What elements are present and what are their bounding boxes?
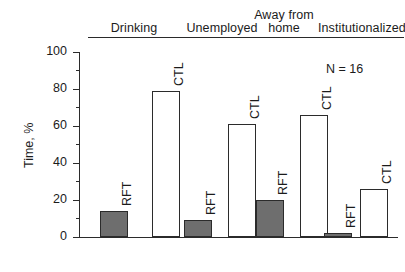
bar-rft <box>100 211 128 237</box>
y-tick-label: 80 <box>35 81 67 95</box>
bar-ctl <box>152 91 180 237</box>
sample-size-annotation: N = 16 <box>326 62 363 76</box>
bar-label-rft: RFT <box>344 204 358 228</box>
bar-rft <box>256 200 284 237</box>
y-tick-minor <box>76 181 81 182</box>
y-tick-label: 60 <box>35 118 67 132</box>
group-header-underline <box>246 37 322 38</box>
y-tick-minor <box>76 218 81 219</box>
y-tick-label: 20 <box>35 192 67 206</box>
group-header-drinking: Drinking <box>88 22 180 38</box>
y-axis-title: Time, % <box>22 123 36 168</box>
group-header-line: home <box>246 22 322 35</box>
group-header-away-from-home: Away from home <box>246 9 322 38</box>
bar-ctl <box>228 124 256 237</box>
group-header-underline <box>88 37 180 38</box>
x-axis-line <box>79 237 398 238</box>
bar-label-ctl: CTL <box>320 86 334 110</box>
y-tick-major <box>73 126 80 127</box>
group-header-institutionalized: Institutionalized <box>318 22 404 38</box>
group-header-line: Drinking <box>88 22 180 35</box>
bar-chart-figure: Drinking Unemployed Away from home Insti… <box>0 0 405 272</box>
bar-label-rft: RFT <box>120 182 134 206</box>
bar-label-ctl: CTL <box>172 62 186 86</box>
y-tick-label: 100 <box>35 44 67 58</box>
bar-ctl <box>300 115 328 237</box>
y-tick-major <box>73 52 80 53</box>
bar-ctl <box>360 189 388 237</box>
group-header-line: Institutionalized <box>318 22 404 35</box>
y-tick-minor <box>76 70 81 71</box>
y-tick-major <box>73 89 80 90</box>
y-tick-minor <box>76 107 81 108</box>
bar-label-rft: RFT <box>276 171 290 195</box>
group-header-underline <box>318 37 404 38</box>
y-tick-major <box>73 237 80 238</box>
bar-label-ctl: CTL <box>380 160 394 184</box>
bar-label-rft: RFT <box>204 191 218 215</box>
y-tick-minor <box>76 144 81 145</box>
bar-label-ctl: CTL <box>248 96 262 120</box>
y-tick-label: 40 <box>35 155 67 169</box>
y-tick-major <box>73 200 80 201</box>
y-tick-major <box>73 163 80 164</box>
bar-rft <box>184 220 212 237</box>
y-tick-label: 0 <box>35 229 67 243</box>
bar-rft <box>324 233 352 237</box>
